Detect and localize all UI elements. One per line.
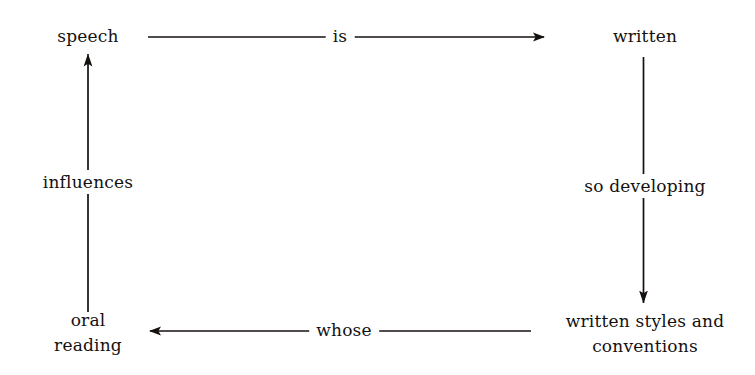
node-oral-reading-line-2: reading — [3, 333, 173, 358]
edge-label-so-developing: so developing — [577, 174, 712, 198]
edge-label-whose: whose — [309, 318, 379, 342]
node-written: written — [613, 24, 677, 48]
node-speech: speech — [57, 24, 118, 48]
node-oral-reading: oral reading — [3, 308, 173, 358]
node-written-styles-line-1: written styles and — [530, 309, 755, 334]
node-written-styles-and-conventions: written styles and conventions — [530, 309, 755, 359]
edge-label-is: is — [326, 24, 355, 48]
node-oral-reading-line-1: oral — [3, 308, 173, 333]
flow-diagram: speech written written styles and conven… — [0, 0, 755, 375]
edge-label-influences: influences — [37, 170, 139, 194]
node-written-styles-line-2: conventions — [530, 334, 755, 359]
